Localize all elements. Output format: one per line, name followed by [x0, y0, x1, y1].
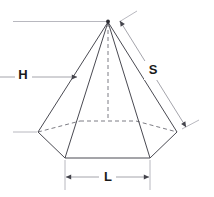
base-edge-front-right [150, 132, 177, 158]
lateral-edges-group [38, 22, 177, 158]
height-label: H [18, 67, 27, 82]
extension-line-slant-top [119, 11, 137, 22]
base-edges-group [38, 132, 177, 158]
slant-label: S [149, 62, 158, 77]
lateral-edge-front-left [65, 22, 108, 158]
apex-point [106, 20, 110, 24]
dimension-lines-group [0, 21, 186, 177]
pyramid-drawing: H S L [0, 0, 214, 197]
lateral-edge-front-right [108, 22, 150, 158]
extension-lines [13, 11, 199, 190]
base-edge-front-left [38, 132, 65, 158]
side-length-label: L [104, 169, 112, 184]
hexagonal-pyramid-figure: H S L [0, 0, 214, 197]
lateral-edge-right [108, 22, 177, 132]
